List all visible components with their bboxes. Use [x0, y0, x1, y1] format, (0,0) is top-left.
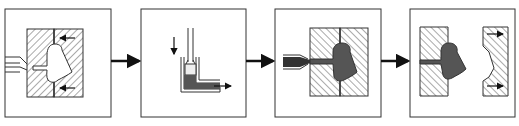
panel-frame	[141, 9, 246, 117]
process-diagram: Injection molding process steps Mold clo…	[0, 0, 519, 126]
step-3-panel	[275, 9, 381, 117]
step-2-panel	[141, 9, 246, 117]
step-4-panel	[410, 9, 515, 117]
step-1-panel	[5, 9, 111, 117]
